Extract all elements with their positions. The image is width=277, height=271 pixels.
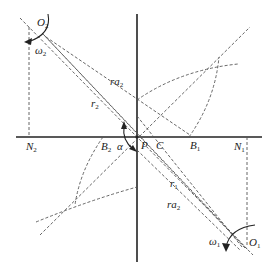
alpha-arc [124,127,133,149]
label-n2: N2 [26,141,37,154]
label-omega1: ω1 [209,236,220,249]
tooth-arc-b1 [189,57,219,137]
omega2-arrowhead [24,38,32,45]
label-ra2-lower: ra2 [167,199,180,212]
label-b1: B1 [190,140,200,153]
omega1-arrowhead [222,243,230,252]
label-b2: B2 [101,141,111,154]
label-c: C [156,140,163,151]
diagram-canvas [0,0,277,271]
label-p: P [141,140,148,151]
addendum-arc-lower [36,187,137,222]
tooth-arc-b2 [75,137,103,205]
label-alpha: α [117,141,123,152]
label-o2: O2 [37,17,48,30]
gear-mesh-diagram: O2 ω2 ra2 r2 N2 B2 α P C B1 N1 r1 ra2 ω1… [0,0,277,271]
label-n1: N1 [234,141,245,154]
label-r2: r2 [91,98,99,111]
label-ra2-upper: ra2 [110,76,123,89]
label-omega2: ω2 [35,45,46,58]
label-o1: O1 [249,237,260,250]
label-r1: r1 [170,178,178,191]
addendum-arc-upper [137,64,238,100]
pitch-point-dot [135,135,138,138]
line-lower-ra2 [137,150,240,250]
